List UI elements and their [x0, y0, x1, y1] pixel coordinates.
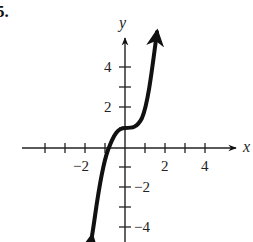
x-axis: x −2 2 4: [22, 138, 250, 174]
x-tick-label-neg2: −2: [73, 158, 89, 174]
x-axis-label: x: [242, 138, 250, 155]
y-tick-label-neg4: −4: [134, 219, 150, 235]
y-axis-label: y: [117, 14, 127, 32]
y-tick-label-4: 4: [104, 59, 112, 75]
x-tick-label-2: 2: [161, 158, 169, 174]
y-tick-label-neg2: −2: [134, 179, 150, 195]
graph: x −2 2 4 y 4 2 −2 −4: [0, 0, 253, 242]
y-tick-label-2: 2: [104, 99, 112, 115]
x-tick-label-4: 4: [201, 158, 209, 174]
